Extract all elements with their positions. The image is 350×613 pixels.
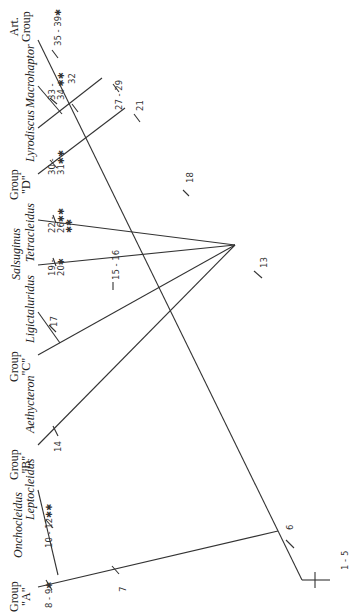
char-13: 13	[260, 257, 269, 268]
branch-spine	[38, 40, 302, 580]
char-10-12: 10 - 12✱✱	[45, 504, 54, 548]
char-32: 32	[68, 73, 77, 84]
char-18: 18	[186, 172, 195, 183]
char-27-29: 27 - 29	[115, 80, 124, 110]
taxon-lyrodiscus: Lyrodiscus	[24, 110, 36, 162]
taxon-tetracleidus: Tetracleidus	[24, 203, 36, 262]
branch-aethycteron	[38, 245, 235, 445]
char-17: 17	[50, 316, 59, 327]
taxon-leptocleidus: Leptocleidus	[24, 459, 36, 520]
taxon-ligictaluridus: Ligictaluridus	[24, 275, 36, 343]
tick-35-39	[52, 50, 58, 58]
taxon-macrohaptor: Macrohaptor	[24, 44, 36, 108]
group-d-label: Group "D"	[8, 169, 32, 200]
tick-6	[286, 540, 294, 548]
taxon-aethycteron: Aethycteron	[24, 375, 36, 433]
char-7: 7	[119, 587, 128, 592]
char-15-16: 15 - 16	[112, 250, 121, 280]
branch-group-a	[38, 531, 278, 587]
taxon-salsuginus: Salsuginus	[10, 228, 22, 280]
tick-18	[183, 190, 189, 196]
char-30-31: 30 - 31✱✱	[48, 150, 65, 175]
char-19-20: 19 - 20✱	[48, 258, 65, 276]
char-35-39: 35 - 39✱	[54, 9, 63, 46]
char-8-9: 8 - 9✱	[45, 582, 54, 608]
char-1-5: 1 - 5	[341, 551, 350, 570]
group-a-label: Group "A"	[8, 581, 32, 612]
char-6: 6	[286, 525, 295, 530]
art-group-label: Art. Group	[8, 11, 32, 42]
char-14: 14	[54, 441, 63, 452]
tick-21	[134, 114, 140, 122]
char-21: 21	[136, 100, 145, 111]
char-22-26: 22 - 26✱✱ ✱✱	[48, 208, 74, 233]
tick-13	[254, 271, 262, 278]
char-33-34: 33 - 34 ✱✱	[48, 72, 65, 100]
